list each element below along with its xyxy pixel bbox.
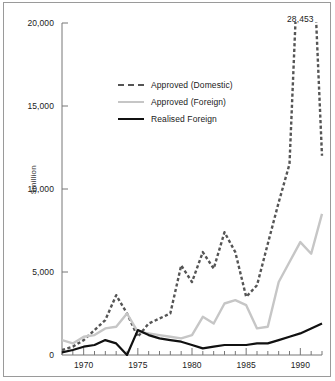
y-tick-label: 0 (10, 350, 54, 360)
legend-swatch-lightgray-icon (118, 101, 144, 103)
legend-label: Realised Foreign (151, 114, 217, 124)
x-tick-label: 1980 (172, 360, 212, 370)
x-tick-label: 1970 (64, 360, 104, 370)
y-axis-ticks (62, 23, 68, 272)
chart-legend: Approved (Domestic) Approved (Foreign) R… (118, 76, 233, 127)
y-axis-label: $million (29, 135, 38, 225)
x-tick-label: 1985 (226, 360, 266, 370)
y-tick-label: 20,000 (10, 18, 54, 28)
y-tick-label: 10,000 (10, 184, 54, 194)
y-tick-label: 5,000 (10, 267, 54, 277)
chart-series-lines (62, 0, 322, 355)
y-tick-label: 15,000 (10, 101, 54, 111)
x-axis-ticks (62, 348, 322, 355)
legend-swatch-black-icon (118, 118, 144, 120)
peak-value-annotation: 28,453 (275, 14, 325, 24)
legend-item-realised-foreign: Realised Foreign (118, 110, 233, 127)
legend-label: Approved (Foreign) (151, 97, 226, 107)
legend-swatch-dashed-icon (118, 84, 144, 86)
x-tick-label: 1990 (280, 360, 320, 370)
series-line (62, 0, 322, 350)
legend-item-approved-domestic: Approved (Domestic) (118, 76, 233, 93)
x-tick-label: 1975 (118, 360, 158, 370)
legend-label: Approved (Domestic) (151, 80, 233, 90)
legend-item-approved-foreign: Approved (Foreign) (118, 93, 233, 110)
